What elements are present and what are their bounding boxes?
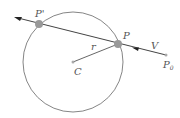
point-p [114,40,122,48]
label-p: P [122,30,130,41]
ray-arrow-left-icon [14,17,22,21]
point-c [72,61,75,64]
label-p0-sub: 0 [170,64,174,71]
label-p0: P0 [162,59,174,71]
point-p0 [165,54,168,57]
label-v: V [151,40,160,51]
direction-arrow-icon [132,48,139,52]
label-p-prime: P' [34,8,44,19]
point-p-prime [35,20,43,28]
ray-sphere-diagram: P' P V P0 r C [0,0,180,118]
label-r: r [91,41,97,52]
label-c: C [74,66,82,77]
